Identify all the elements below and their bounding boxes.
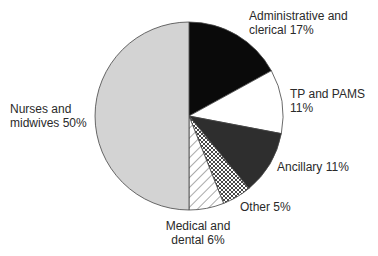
slice-label-tp-and-pams: TP and PAMS11% xyxy=(290,87,365,115)
slice-label-medical-and-dental: Medical anddental 6% xyxy=(166,219,231,247)
slice-label-other: Other 5% xyxy=(240,200,291,214)
slice-label-ancillary: Ancillary 11% xyxy=(277,160,349,174)
slice-label-line: clerical 17% xyxy=(249,23,348,37)
slice-label-line: midwives 50% xyxy=(10,116,87,130)
slice-label-line: Administrative and xyxy=(249,9,348,23)
slice-label-administrative-and-clerical: Administrative andclerical 17% xyxy=(249,9,348,37)
pie-slice-nurses-and-midwives xyxy=(95,22,189,210)
slice-label-line: TP and PAMS xyxy=(290,87,365,101)
slice-label-line: 11% xyxy=(290,101,365,115)
slice-label-nurses-and-midwives: Nurses andmidwives 50% xyxy=(10,102,87,130)
slice-label-line: Ancillary 11% xyxy=(277,160,349,174)
slice-label-line: dental 6% xyxy=(166,233,231,247)
slice-label-line: Medical and xyxy=(166,219,231,233)
slice-label-line: Nurses and xyxy=(10,102,87,116)
pie-slices xyxy=(95,22,283,210)
slice-label-line: Other 5% xyxy=(240,200,291,214)
